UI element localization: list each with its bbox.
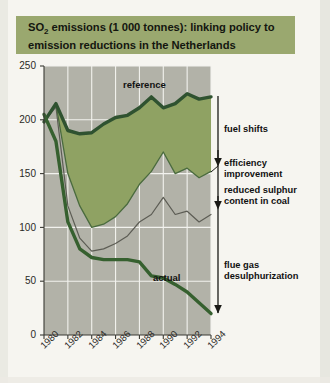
y-tick-label-250: 250 (10, 60, 36, 71)
annotation-reduced-sulphur-line2: content in coal (224, 196, 290, 206)
y-tick-label-100: 100 (10, 222, 36, 233)
annotation-arrow-flue-gas (214, 305, 222, 314)
annotation-efficiency-improvement-line1: efficiency (224, 158, 267, 168)
y-tick-label-0: 0 (10, 329, 36, 340)
annotation-arrow-efficiency (211, 150, 222, 172)
y-tick-label-150: 150 (10, 168, 36, 179)
annotation-reduced-sulphur-content-in-coal: reduced sulphur content in coal (224, 185, 297, 207)
annotation-fuel-shifts: fuel shifts (224, 124, 268, 135)
series-label-reference: reference (123, 79, 166, 90)
y-axis-ticks (40, 66, 44, 335)
annotation-flue-gas-line2: desulphurization (224, 271, 298, 281)
y-tick-label-50: 50 (10, 275, 36, 286)
annotation-efficiency-improvement: efficiency improvement (224, 158, 282, 180)
annotation-reduced-sulphur-line1: reduced sulphur (224, 185, 297, 195)
annotation-efficiency-improvement-line2: improvement (224, 169, 282, 179)
series-label-actual: actual (153, 272, 180, 283)
figure-container: SO2 emissions (1 000 tonnes): linking po… (0, 0, 330, 383)
annotation-arrow-reduced-sulphur (214, 196, 222, 210)
annotation-flue-gas-line1: flue gas (224, 260, 259, 270)
y-tick-label-200: 200 (10, 114, 36, 125)
annotation-flue-gas-desulphurization: flue gas desulphurization (224, 260, 298, 282)
